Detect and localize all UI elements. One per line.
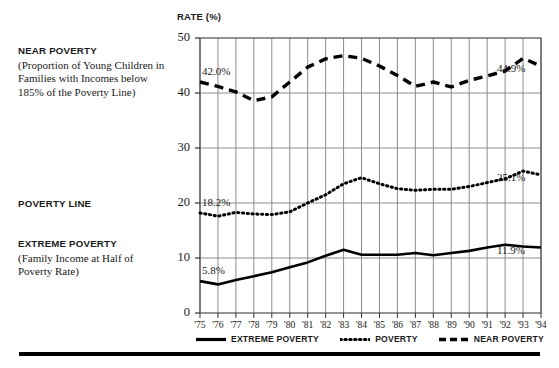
data-point-label: 25.1% bbox=[497, 171, 525, 183]
gridlines bbox=[200, 38, 541, 313]
data-point-label: 44.9% bbox=[497, 62, 525, 74]
y-axis-tick-label: 40 bbox=[164, 85, 190, 100]
series-line-poverty bbox=[200, 171, 541, 216]
legend-label: POVERTY bbox=[375, 334, 417, 344]
legend-item: POVERTY bbox=[340, 334, 417, 344]
legend-label: NEAR POVERTY bbox=[474, 334, 544, 344]
y-axis-tick-label: 30 bbox=[164, 140, 190, 155]
legend-swatch-dotted bbox=[340, 335, 370, 344]
y-axis-tick-label: 50 bbox=[164, 30, 190, 45]
data-point-label: 5.8% bbox=[202, 264, 225, 276]
series-line-extreme-poverty bbox=[200, 245, 541, 285]
data-series-group bbox=[200, 56, 541, 285]
chart-legend: EXTREME POVERTYPOVERTYNEAR POVERTY bbox=[196, 331, 544, 347]
data-point-label: 42.0% bbox=[202, 65, 230, 77]
data-point-label: 11.9% bbox=[497, 244, 525, 256]
legend-swatch-dashed bbox=[439, 335, 469, 344]
legend-item: NEAR POVERTY bbox=[439, 334, 544, 344]
x-axis-tick-label: '94 bbox=[529, 319, 553, 330]
legend-label: EXTREME POVERTY bbox=[231, 334, 319, 344]
line-chart: RATE (%) 01020304050 '75'76'77'78'79'80'… bbox=[0, 0, 559, 340]
data-point-label: 18.2% bbox=[202, 196, 230, 208]
plot-area bbox=[0, 0, 559, 340]
series-line-near-poverty bbox=[200, 56, 541, 101]
legend-swatch-solid bbox=[196, 335, 226, 344]
legend-item: EXTREME POVERTY bbox=[196, 334, 319, 344]
y-axis-tick-label: 20 bbox=[164, 195, 190, 210]
axis-frame bbox=[195, 38, 541, 318]
y-axis-tick-label: 0 bbox=[164, 305, 190, 320]
y-axis-tick-label: 10 bbox=[164, 250, 190, 265]
horizontal-rule bbox=[19, 352, 540, 356]
